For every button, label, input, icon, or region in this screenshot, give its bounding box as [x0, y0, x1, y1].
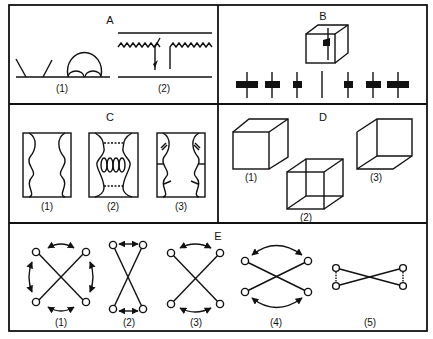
panel-a-title: A	[106, 14, 114, 26]
panel-e-figure-1	[29, 244, 93, 311]
panel-c-label-2: (2)	[107, 201, 119, 212]
panel-e-figure-4	[241, 246, 311, 308]
panel-c-label-1: (1)	[41, 201, 53, 212]
panel-d-cube-1	[233, 119, 288, 169]
panel-e: E (1) (2)	[29, 230, 406, 328]
panel-e-title: E	[214, 230, 221, 242]
panel-e-label-1: (1)	[55, 317, 67, 328]
panel-d: D (1) (2) (3)	[233, 111, 412, 223]
panel-d-label-3: (3)	[370, 172, 382, 183]
panel-a-figure-2	[118, 33, 212, 77]
panel-d-cube-2	[287, 159, 343, 209]
panel-c: C (1) (2)	[23, 111, 205, 212]
panel-e-figure-5	[333, 265, 407, 290]
panel-e-label-5: (5)	[364, 317, 376, 328]
panel-a-figure-1	[16, 52, 110, 77]
panel-d-label-1: (1)	[245, 172, 257, 183]
panel-d-cube-3	[357, 119, 412, 169]
figure-canvas: A (1) (2) B	[0, 0, 433, 339]
panel-e-label-3: (3)	[190, 317, 202, 328]
panel-c-figure-1	[23, 133, 71, 197]
panel-b-title: B	[319, 10, 326, 22]
panel-e-label-4: (4)	[270, 317, 282, 328]
panel-d-label-2: (2)	[300, 212, 312, 223]
panel-c-title: C	[106, 111, 114, 123]
panel-b-bar-sequence	[236, 71, 409, 98]
panel-e-label-2: (2)	[123, 317, 135, 328]
panel-a-label-2: (2)	[158, 83, 170, 94]
panel-c-figure-2	[89, 133, 138, 197]
panel-c-figure-3	[157, 133, 205, 197]
panel-a-label-1: (1)	[56, 83, 68, 94]
panel-b: B	[236, 10, 409, 98]
panel-e-figure-2	[109, 241, 146, 312]
panel-c-label-3: (3)	[175, 201, 187, 212]
panel-d-title: D	[319, 111, 327, 123]
panel-a: A (1) (2)	[16, 14, 212, 94]
panel-e-figure-3	[167, 244, 223, 312]
panel-b-cube	[306, 25, 348, 63]
